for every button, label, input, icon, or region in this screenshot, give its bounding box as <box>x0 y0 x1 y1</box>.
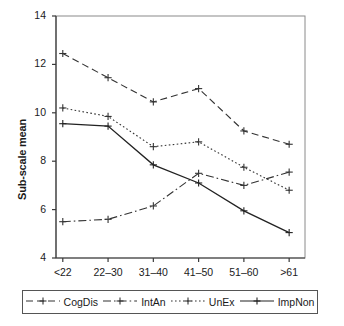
legend-line-sample-icon <box>103 295 137 309</box>
legend-label: CogDis <box>64 297 98 308</box>
legend-item-cogdis: CogDis <box>26 295 98 309</box>
plot-area <box>0 0 344 326</box>
series-line <box>63 172 289 222</box>
legend-item-unex: UnEx <box>171 295 235 309</box>
legend-line-sample-icon <box>240 295 274 309</box>
legend-line-sample-icon <box>26 295 60 309</box>
legend-label: UnEx <box>209 297 235 308</box>
legend-item-impnon: ImpNon <box>240 295 315 309</box>
chart-legend: CogDisIntAnUnExImpNon <box>22 290 318 314</box>
chart-figure: Sub-scale mean 468101214 <2222–3031–4041… <box>0 0 344 326</box>
series-line <box>63 108 289 190</box>
series-cogdis <box>59 50 293 148</box>
series-unex <box>59 104 293 193</box>
legend-item-intan: IntAn <box>103 295 166 309</box>
series-line <box>63 54 289 145</box>
legend-line-sample-icon <box>171 295 205 309</box>
series-impnon <box>59 120 293 236</box>
legend-label: ImpNon <box>278 297 315 308</box>
series-line <box>63 124 289 233</box>
legend-label: IntAn <box>141 297 166 308</box>
